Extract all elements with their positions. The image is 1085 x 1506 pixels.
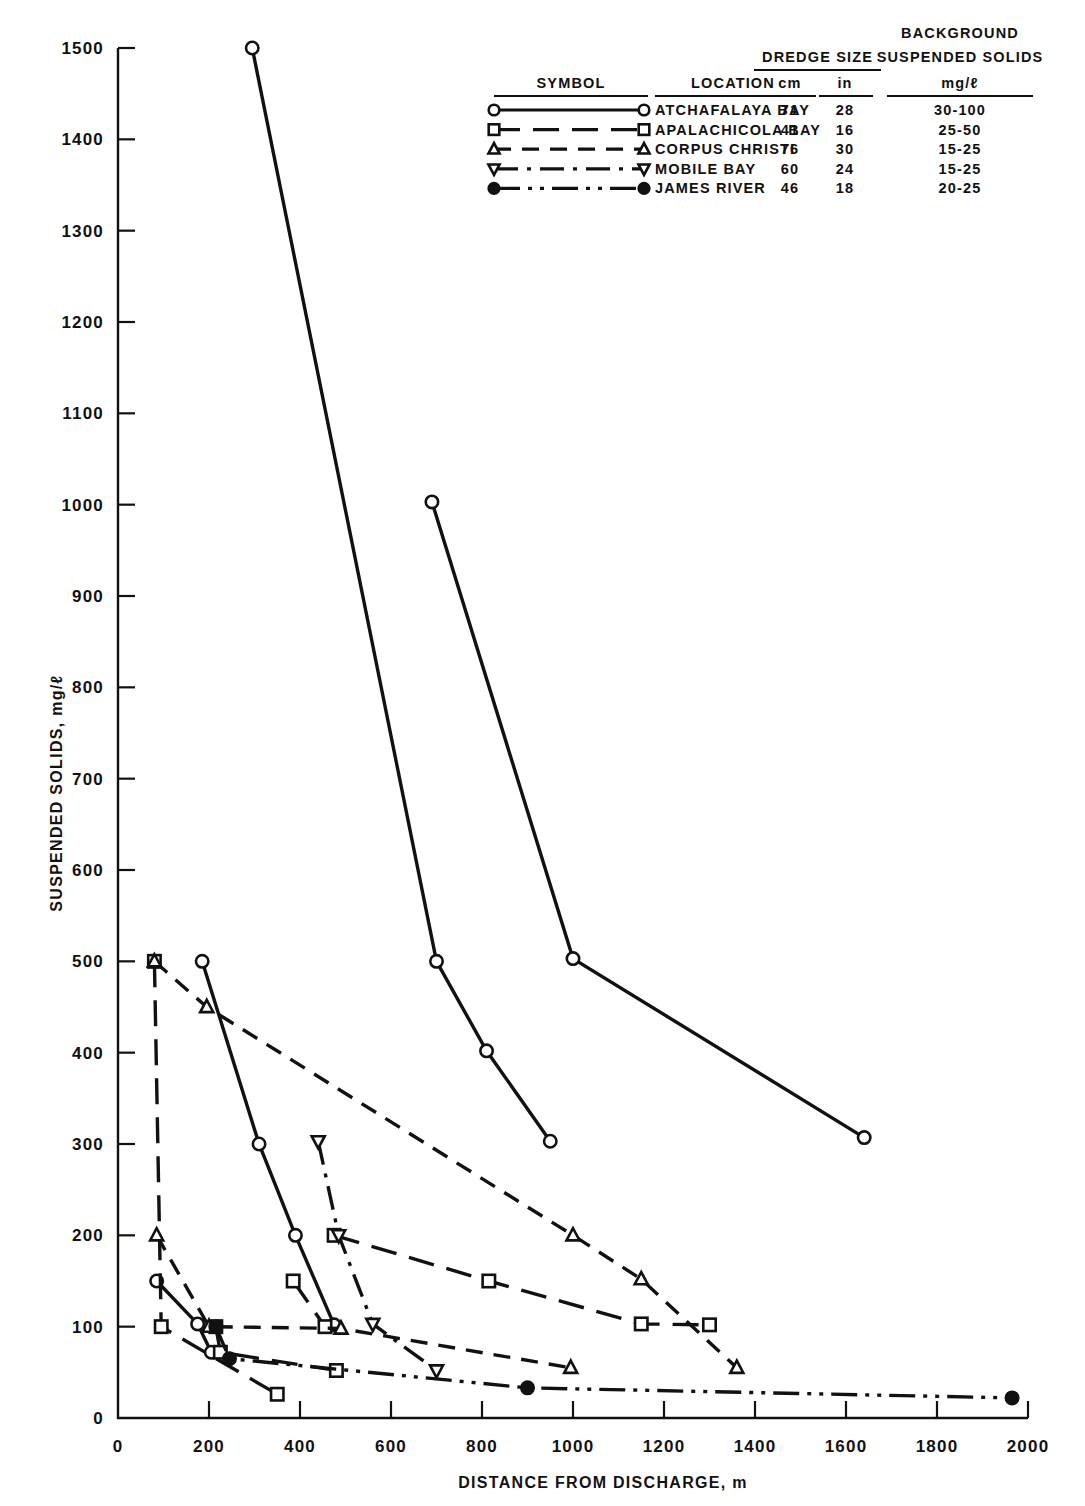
legend-dredge-cm: 46: [781, 180, 799, 196]
data-point-marker: [480, 1045, 492, 1057]
legend-dredge-in: 16: [836, 122, 854, 138]
data-point-marker: [271, 1388, 283, 1400]
data-point-marker: [289, 1229, 301, 1241]
series-path: [154, 961, 736, 1367]
axes: [118, 48, 1028, 1418]
data-point-marker: [567, 952, 579, 964]
y-tick-label: 900: [72, 587, 104, 606]
legend-text: SUSPENDED SOLIDS: [877, 49, 1044, 65]
data-point-marker: [639, 105, 650, 116]
data-point-marker: [191, 1318, 203, 1330]
legend-dredge-in: 18: [836, 180, 854, 196]
legend-dredge-in: 24: [836, 161, 854, 177]
x-tick-label: 2000: [1007, 1437, 1050, 1456]
data-point-marker: [489, 124, 500, 135]
x-tick-label: 200: [193, 1437, 225, 1456]
data-point-marker: [246, 42, 258, 54]
data-point-marker: [639, 183, 650, 194]
data-point-marker: [566, 1228, 579, 1240]
data-point-marker: [488, 143, 499, 153]
data-point-marker: [544, 1135, 556, 1147]
data-point-marker: [312, 1136, 325, 1148]
data-point-marker: [1006, 1392, 1018, 1404]
series-atchafalaya-bay: [150, 42, 870, 1359]
legend-text: SYMBOL: [537, 75, 606, 91]
y-tick-label: 1200: [61, 313, 104, 332]
y-tick-label: 300: [72, 1135, 104, 1154]
y-tick-label: 1300: [61, 222, 104, 241]
legend-background-solids: 30-100: [934, 102, 986, 118]
data-point-marker: [639, 124, 650, 135]
legend-row[interactable]: CORPUS CHRISTI763015-25: [488, 141, 981, 157]
y-tick-label: 400: [72, 1044, 104, 1063]
data-point-marker: [287, 1275, 299, 1287]
series-path: [432, 502, 864, 1138]
data-point-marker: [196, 955, 208, 967]
data-point-marker: [638, 164, 649, 174]
series-path: [216, 1327, 1012, 1398]
legend-dredge-in: 30: [836, 141, 854, 157]
legend-dredge-cm: 41: [781, 122, 799, 138]
legend-background-solids: 25-50: [939, 122, 982, 138]
legend-row[interactable]: ATCHAFALAYA BAY712830-100: [489, 102, 986, 118]
data-point-marker: [150, 1228, 163, 1240]
series-path: [334, 1235, 709, 1325]
y-tick-label: 700: [72, 770, 104, 789]
suspended-solids-chart: 0100200300400500600700800900100011001200…: [0, 0, 1085, 1506]
y-tick-label: 1500: [61, 39, 104, 58]
data-point-marker: [858, 1131, 870, 1143]
data-point-marker: [155, 1320, 167, 1332]
x-tick-label: 1400: [734, 1437, 777, 1456]
y-axis-title: SUSPENDED SOLIDS, mg/ℓ: [48, 674, 65, 911]
data-point-marker: [426, 496, 438, 508]
data-point-marker: [703, 1319, 715, 1331]
legend-dredge-cm: 71: [781, 102, 799, 118]
legend-background-solids: 15-25: [939, 141, 982, 157]
axis-lines: [118, 48, 1028, 1418]
legend-dredge-in: 28: [836, 102, 854, 118]
data-point-marker: [564, 1361, 577, 1373]
data-point-marker: [489, 183, 500, 194]
legend-row[interactable]: MOBILE BAY602415-25: [488, 161, 981, 177]
y-tick-label: 200: [72, 1226, 104, 1245]
y-tick-label: 1400: [61, 130, 104, 149]
data-point-marker: [483, 1275, 495, 1287]
legend-row[interactable]: JAMES RIVER461820-25: [489, 180, 982, 196]
legend-text: in: [837, 75, 852, 91]
figure-container: 0100200300400500600700800900100011001200…: [0, 0, 1085, 1506]
data-series: [148, 42, 1018, 1404]
y-tick-label: 600: [72, 861, 104, 880]
data-point-marker: [635, 1272, 648, 1284]
y-tick-label: 1000: [61, 496, 104, 515]
x-axis-title: DISTANCE FROM DISCHARGE, m: [458, 1474, 748, 1491]
y-tick-label: 800: [72, 678, 104, 697]
data-point-marker: [638, 143, 649, 153]
legend-dredge-cm: 76: [781, 141, 799, 157]
legend-dredge-cm: 60: [781, 161, 799, 177]
x-tick-label: 1000: [552, 1437, 595, 1456]
legend-text: DREDGE SIZE: [762, 49, 873, 65]
data-point-marker: [253, 1138, 265, 1150]
data-point-marker: [489, 105, 500, 116]
legend-row[interactable]: APALACHICOLA BAY411625-50: [489, 122, 982, 138]
x-tick-label: 800: [466, 1437, 498, 1456]
data-point-marker: [488, 164, 499, 174]
series-path: [318, 1141, 436, 1370]
data-point-marker: [223, 1352, 235, 1364]
series-path: [252, 48, 550, 1141]
y-tick-label: 1100: [62, 404, 104, 423]
y-tick-label: 0: [93, 1409, 104, 1428]
legend-background-solids: 20-25: [939, 180, 982, 196]
data-point-marker: [430, 1365, 443, 1377]
x-tick-label: 1200: [643, 1437, 686, 1456]
legend-location-label: JAMES RIVER: [655, 180, 766, 196]
data-point-marker: [430, 955, 442, 967]
axis-labels: 0100200300400500600700800900100011001200…: [48, 39, 1049, 1491]
x-tick-label: 400: [284, 1437, 316, 1456]
y-tick-label: 100: [72, 1318, 104, 1337]
legend-location-label: CORPUS CHRISTI: [655, 141, 795, 157]
legend-background-solids: 15-25: [939, 161, 982, 177]
data-point-marker: [210, 1320, 222, 1332]
legend-text: mg/ℓ: [941, 75, 978, 91]
data-point-marker: [521, 1382, 533, 1394]
